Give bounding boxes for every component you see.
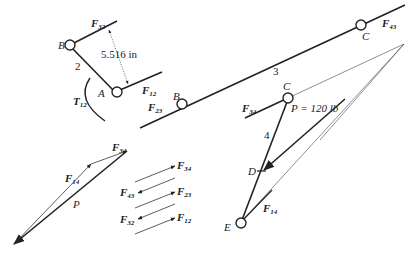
pin-C-link3: [356, 20, 366, 30]
label-F32: F32: [90, 17, 106, 31]
label-pin-B: B: [58, 39, 65, 51]
legend-arrow-F43: [138, 178, 175, 193]
link-4-free-body: C F34 P = 120 lb 4 D F14 E: [223, 44, 404, 233]
label-F43: F43: [381, 17, 397, 31]
label-load-P: P = 120 lb: [290, 102, 339, 114]
label-pin-B-link3: B: [173, 90, 180, 102]
polygon-label-F14: F14: [64, 172, 80, 186]
link-2-free-body: F32 B 5.516 in 2 A F12 T12: [58, 17, 162, 121]
label-pin-C-link4: C: [283, 80, 291, 92]
label-F14: F14: [262, 202, 278, 216]
polygon-label-P: P: [72, 198, 80, 210]
label-F34: F34: [241, 102, 257, 116]
polygon-label-F34: F34: [111, 141, 127, 155]
legend-label-F12: F12: [176, 211, 192, 225]
label-link-3: 3: [273, 65, 279, 77]
legend-arrow-F23: [135, 192, 175, 208]
label-F12: F12: [141, 84, 157, 98]
torque-arc-icon: [85, 78, 105, 121]
label-F23: F23: [147, 101, 163, 115]
label-link-2: 2: [75, 60, 81, 72]
label-pin-A: A: [97, 87, 105, 99]
legend-label-F32: F32: [119, 213, 135, 227]
label-pin-C-link3: C: [362, 30, 370, 42]
force-diagram: F32 B 5.516 in 2 A F12 T12 F23 B 3 C F43: [0, 0, 419, 256]
link-3-free-body: F23 B 3 C F43: [140, 5, 405, 128]
force-polygon: F14 F34 P: [14, 141, 127, 244]
pin-E: [236, 218, 246, 228]
legend-label-F43: F43: [119, 186, 135, 200]
legend-label-F34: F34: [176, 159, 192, 173]
legend-arrow-F34: [135, 166, 175, 182]
label-pin-E: E: [223, 221, 231, 233]
construction-line-2: [320, 44, 404, 140]
force-line-F12: [120, 72, 162, 90]
legend-arrow-F12: [135, 218, 175, 234]
label-pin-D: D: [247, 165, 256, 177]
pin-B-link2: [65, 40, 75, 50]
dimension-label: 5.516 in: [101, 48, 138, 60]
label-link-4: 4: [264, 129, 270, 141]
legend-label-F23: F23: [176, 185, 192, 199]
legend-arrow-F32: [138, 204, 175, 219]
pin-A: [112, 87, 122, 97]
polygon-P-vector: [14, 151, 127, 244]
direction-legend: F34 F43 F23 F32 F12: [119, 159, 192, 234]
